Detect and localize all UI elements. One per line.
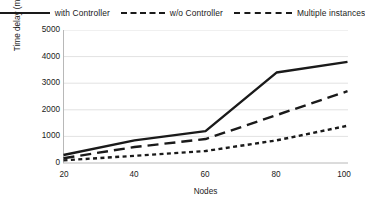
series-line-multiple-instances bbox=[64, 91, 348, 158]
x-tick-80: 80 bbox=[256, 171, 296, 179]
series-line-with-controller bbox=[64, 62, 348, 155]
dotted-line-swatch-icon bbox=[121, 12, 165, 14]
x-tick-40: 40 bbox=[114, 171, 154, 179]
x-axis-title: Nodes bbox=[63, 188, 348, 196]
y-tick-1000: 1000 bbox=[26, 132, 60, 140]
y-axis-tick-labels: 5000 4000 3000 2000 1000 0 bbox=[22, 0, 60, 211]
y-tick-2000: 2000 bbox=[26, 106, 60, 114]
chart-svg bbox=[63, 30, 348, 166]
y-tick-4000: 4000 bbox=[26, 52, 60, 60]
plot-area bbox=[63, 30, 348, 166]
x-tick-60: 60 bbox=[185, 171, 225, 179]
y-tick-3000: 3000 bbox=[26, 79, 60, 87]
y-tick-5000: 5000 bbox=[26, 26, 60, 34]
legend-label: Multiple instances bbox=[297, 9, 365, 17]
data-series-group bbox=[64, 62, 348, 160]
legend-label: with Controller bbox=[55, 9, 110, 17]
legend-label: w/o Controller bbox=[170, 9, 223, 17]
y-tick-0: 0 bbox=[26, 159, 60, 167]
grid-lines bbox=[63, 30, 348, 136]
legend-item-multiple-instances: Multiple instances bbox=[234, 9, 365, 17]
legend-item-wo-controller: w/o Controller bbox=[121, 9, 223, 17]
x-tick-100: 100 bbox=[324, 171, 364, 179]
x-tick-20: 20 bbox=[44, 171, 84, 179]
dashed-line-swatch-icon bbox=[234, 12, 292, 14]
